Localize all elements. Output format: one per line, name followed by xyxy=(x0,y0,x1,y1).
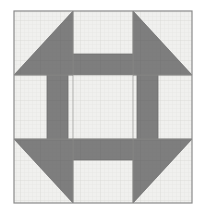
middle-right-bar xyxy=(137,75,158,139)
cell-center-square xyxy=(73,75,133,139)
cell-middle-right-edge xyxy=(137,75,158,139)
quilt-block-figure xyxy=(0,0,204,215)
top-middle-bar xyxy=(73,54,133,75)
middle-left-bar xyxy=(47,75,68,139)
quilt-block-svg xyxy=(0,0,204,215)
cell-bottom-middle-edge xyxy=(73,139,133,160)
center-square-fill xyxy=(73,75,133,139)
quilt-block xyxy=(14,11,192,203)
bottom-middle-bar xyxy=(73,139,133,160)
cell-middle-left-edge xyxy=(47,75,68,139)
cell-top-middle-edge xyxy=(73,54,133,75)
